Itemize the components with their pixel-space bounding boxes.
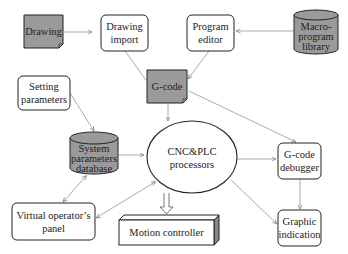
node-graphic-indication-label-2: indication (279, 229, 322, 240)
node-setting-parameters-label-1: Setting (29, 81, 60, 92)
node-cnc-plc-label-1: CNC&PLC (167, 146, 216, 157)
edge-setting-to-db (70, 93, 94, 131)
node-setting-parameters: Setting parameters (18, 76, 70, 110)
node-graphic-indication-label-1: Graphic (283, 216, 317, 227)
node-macro-library: Macro- program library (294, 10, 338, 54)
node-graphic-indication: Graphic indication (278, 210, 321, 246)
node-program-editor: Program editor (187, 15, 234, 51)
edge-cnc-panel (96, 182, 155, 218)
node-drawing-import-label-2: import (111, 34, 139, 45)
node-program-editor-label-1: Program (192, 21, 228, 32)
node-gcode-debugger-label-1: G-code (284, 149, 315, 160)
node-drawing-import: Drawing import (101, 15, 148, 51)
cnc-architecture-diagram: Drawing Drawing import Program editor Ma… (0, 0, 348, 254)
edge-cnc-to-graphic (231, 180, 277, 224)
node-virtual-panel-label-1: Virtual operator’s (16, 210, 90, 221)
node-motion-controller: Motion controller (119, 215, 219, 245)
node-motion-controller-label: Motion controller (129, 227, 204, 238)
edge-editor-to-gcode (188, 51, 209, 79)
node-system-db: System parameters database (70, 132, 118, 174)
node-setting-parameters-label-2: parameters (21, 94, 67, 105)
hollow-arrow-cnc-to-motion (160, 193, 173, 214)
node-cnc-plc: CNC&PLC processors (147, 121, 237, 193)
node-drawing-import-label-1: Drawing (106, 21, 143, 32)
node-program-editor-label-2: editor (198, 34, 223, 45)
node-gcode-debugger-label-2: debugger (280, 162, 320, 173)
node-drawing: Drawing (24, 15, 63, 48)
node-system-db-label-3: database (76, 163, 112, 174)
node-macro-library-label-3: library (302, 41, 331, 52)
node-virtual-panel: Virtual operator’s panel (12, 203, 95, 240)
node-virtual-panel-label-2: panel (42, 223, 65, 234)
node-gcode-debugger: G-code debugger (278, 143, 321, 179)
node-gcode-label: G-code (152, 81, 183, 92)
edge-db-panel (63, 176, 86, 202)
node-gcode: G-code (147, 70, 187, 103)
edge-import-to-gcode (125, 51, 146, 80)
node-drawing-label: Drawing (25, 26, 62, 37)
node-cnc-plc-label-2: processors (170, 159, 214, 170)
